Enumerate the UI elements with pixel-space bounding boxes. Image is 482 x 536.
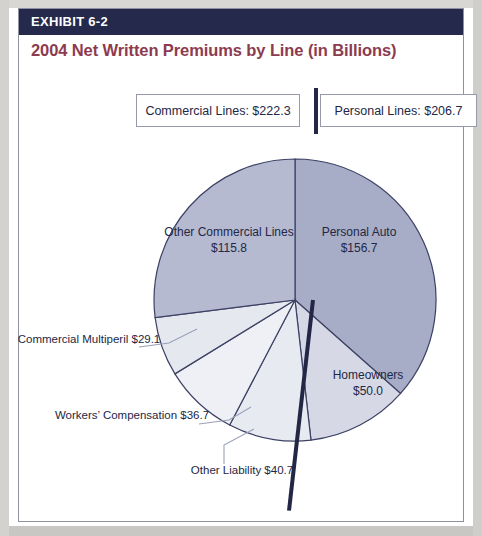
- page-edge-left: [0, 0, 9, 536]
- slice-label-workers-compensation-value: $36.7: [180, 409, 209, 421]
- slice-label-personal-auto-name: Personal Auto: [322, 225, 397, 239]
- callout-personal-lines: Personal Lines: $206.7: [320, 94, 477, 127]
- slice-label-homeowners-value: $50.0: [319, 383, 417, 399]
- slice-label-commercial-multiperil-value: $29.1: [131, 333, 160, 345]
- slice-label-personal-auto: Personal Auto $156.7: [304, 224, 414, 256]
- slice-label-workers-compensation-name: Workers’ Compensation: [55, 409, 177, 421]
- slice-label-other-commercial-lines-value: $115.8: [154, 240, 304, 256]
- page-edge-bottom: [0, 526, 482, 536]
- exhibit-card: EXHIBIT 6-2 2004 Net Written Premiums by…: [18, 8, 464, 522]
- exhibit-page: EXHIBIT 6-2 2004 Net Written Premiums by…: [0, 0, 482, 536]
- slice-label-personal-auto-value: $156.7: [304, 240, 414, 256]
- slice-label-other-commercial-lines-name: Other Commercial Lines: [164, 225, 293, 239]
- pie-chart-svg: [19, 9, 465, 523]
- slice-label-other-commercial-lines: Other Commercial Lines $115.8: [154, 224, 304, 256]
- slice-label-other-liability-name: Other Liability: [191, 464, 261, 476]
- page-edge-right: [473, 0, 482, 536]
- group-divider-upper: [314, 88, 318, 134]
- slice-label-homeowners: Homeowners $50.0: [319, 367, 417, 399]
- slice-label-other-liability-value: $40.7: [264, 464, 293, 476]
- slice-label-workers-compensation: Workers’ Compensation $36.7: [47, 407, 217, 423]
- pie-chart: [19, 9, 465, 523]
- page-edge-top: [0, 0, 482, 8]
- slice-label-homeowners-name: Homeowners: [333, 368, 404, 382]
- slice-label-commercial-multiperil-name: Commercial Multiperil: [18, 333, 129, 345]
- slice-label-commercial-multiperil: Commercial Multiperil $29.1: [9, 331, 169, 347]
- callout-commercial-lines: Commercial Lines: $222.3: [136, 94, 300, 127]
